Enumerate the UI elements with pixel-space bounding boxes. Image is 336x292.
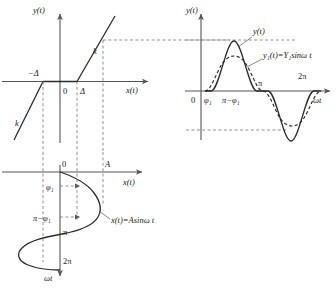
figure-container: y(t) x(t) 0 −Δ Δ k k y(t) ωt 0 y(t) y₁(t… bbox=[0, 0, 336, 292]
input-origin-label: 0 bbox=[62, 159, 66, 169]
output-tick-2pi: 2π bbox=[298, 71, 307, 81]
output-tick-phi1: φ₁ bbox=[204, 95, 212, 105]
output-curve-leader bbox=[238, 37, 252, 47]
nonlinearity-slope-label-left: k bbox=[15, 118, 19, 128]
output-origin-label: 0 bbox=[191, 95, 195, 105]
input-curve-label: x(t)=Asinω t bbox=[110, 215, 155, 225]
panel-output: y(t) ωt 0 y(t) y₁(t)=Y₁sinω t φ₁ π−φ₁ π … bbox=[185, 5, 330, 141]
nonlinearity-slope-label-right: k bbox=[93, 46, 97, 56]
nonlinearity-left-branch bbox=[14, 82, 43, 141]
nonlinearity-y-axis-label: y(t) bbox=[32, 5, 45, 15]
input-curve-leader bbox=[99, 211, 110, 219]
nonlinearity-pos-threshold-label: Δ bbox=[79, 86, 85, 96]
output-omega-t-axis-label: ωt bbox=[313, 95, 322, 105]
input-amplitude-label: A bbox=[104, 159, 111, 169]
input-curve bbox=[19, 172, 100, 270]
input-dash-phi1-arrow bbox=[75, 183, 80, 188]
output-curve-label: y(t) bbox=[252, 26, 265, 36]
output-tick-pi: π bbox=[258, 78, 263, 88]
input-tick-2pi: 2π bbox=[63, 256, 72, 266]
nonlinearity-neg-threshold-label: −Δ bbox=[28, 68, 39, 78]
figure-svg: y(t) x(t) 0 −Δ Δ k k y(t) ωt 0 y(t) y₁(t… bbox=[0, 0, 336, 292]
input-omega-t-axis-label: ωt bbox=[44, 273, 53, 283]
nonlinearity-origin-label: 0 bbox=[63, 86, 67, 96]
output-fundamental-label: y₁(t)=Y₁sinω t bbox=[262, 50, 312, 60]
output-tick-pi-minus-phi1: π−φ₁ bbox=[222, 95, 240, 105]
input-tick-phi1: φ₁ bbox=[46, 182, 54, 192]
input-tick-pi: π bbox=[63, 227, 68, 237]
output-y-axis-label: y(t) bbox=[185, 5, 198, 15]
input-x-axis-label: x(t) bbox=[122, 177, 135, 187]
panel-input: x(t) ωt 0 A φ₁ π−φ₁ π 2π x(t)=Asinω t bbox=[2, 152, 155, 283]
input-dash-pi-minus-phi1-arrow bbox=[75, 214, 80, 219]
input-tick-pi-minus-phi1: π−φ₁ bbox=[33, 213, 51, 223]
output-fundamental-leader bbox=[247, 59, 262, 67]
nonlinearity-x-axis-label: x(t) bbox=[125, 85, 138, 95]
